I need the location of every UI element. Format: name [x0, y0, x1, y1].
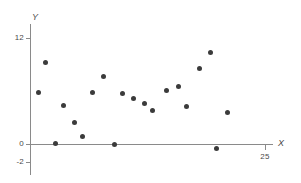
data-point [36, 90, 41, 95]
data-point [72, 120, 77, 125]
data-point [164, 88, 169, 93]
data-point [131, 96, 136, 101]
data-point [101, 74, 106, 79]
data-point [80, 134, 85, 139]
data-point [142, 101, 147, 106]
data-point [90, 90, 95, 95]
data-point [208, 50, 213, 55]
y-tick-label: 12 [0, 33, 24, 42]
data-point [184, 104, 189, 109]
y-axis-title: Y [32, 12, 38, 22]
data-point [176, 84, 181, 89]
data-point [214, 146, 219, 151]
y-axis-line [30, 24, 31, 175]
x-tick-label: 25 [250, 152, 280, 161]
data-point [112, 142, 117, 147]
y-tick-mark [26, 144, 31, 145]
y-tick-label: 0 [0, 139, 24, 148]
x-axis-line [30, 144, 273, 145]
scatter-chart: Y X 120-2 25 [0, 0, 301, 183]
data-point [150, 108, 155, 113]
data-point [120, 91, 125, 96]
y-tick-mark [26, 162, 31, 163]
data-point [53, 141, 58, 146]
x-tick-mark [265, 145, 266, 150]
data-point [43, 60, 48, 65]
data-point [197, 66, 202, 71]
y-tick-label: -2 [0, 157, 24, 166]
y-tick-mark [26, 38, 31, 39]
data-point [225, 110, 230, 115]
plot-area: Y X 120-2 25 [0, 0, 301, 183]
data-point [61, 103, 66, 108]
x-axis-title: X [278, 138, 284, 148]
